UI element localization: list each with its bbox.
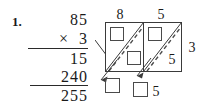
product-total: 255	[30, 87, 88, 105]
arrowhead-to-box-1	[101, 77, 108, 83]
arrowhead-to-box-2	[137, 73, 144, 79]
answer-box-cell2-upper[interactable]	[149, 28, 162, 41]
worksheet-problem: 1. 85 × 3 15 240 255	[0, 0, 219, 109]
lattice-right-label: 3	[185, 41, 199, 55]
divider-line-bottom	[30, 85, 88, 86]
divider-line-top	[28, 48, 88, 49]
arrow-line-offgrid	[95, 40, 106, 54]
answer-box-cell1-upper[interactable]	[111, 28, 124, 41]
multiplier-row: × 3	[28, 30, 88, 48]
lattice-bottom-digit: 5	[149, 85, 163, 99]
partial-product-1: 15	[38, 50, 88, 68]
answer-box-below-left[interactable]	[106, 79, 120, 93]
lattice-cell-digit: 5	[165, 53, 179, 67]
lattice-multiplication-diagram: 8 5 3 5 5	[95, 0, 219, 109]
answer-box-cell1-lower[interactable]	[128, 52, 141, 65]
arrow-line-to-box-1	[101, 60, 117, 80]
lattice-top-label-2: 5	[152, 8, 170, 22]
partial-product-2: 240	[30, 68, 88, 86]
answer-box-below-mid[interactable]	[134, 83, 148, 97]
problem-number: 1.	[12, 14, 22, 30]
long-multiplication-block: 1. 85 × 3 15 240 255	[0, 0, 98, 109]
multiplicand: 85	[38, 11, 88, 29]
lattice-top-label-1: 8	[111, 8, 129, 22]
